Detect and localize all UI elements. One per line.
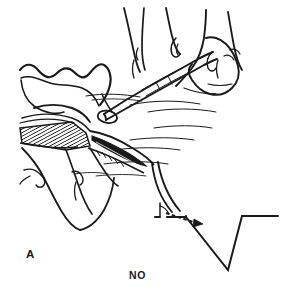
figure-container: A NO (0, 0, 283, 303)
surgical-line-art (0, 0, 283, 303)
page-title: A (26, 249, 35, 261)
status-badge: NO (129, 270, 146, 281)
